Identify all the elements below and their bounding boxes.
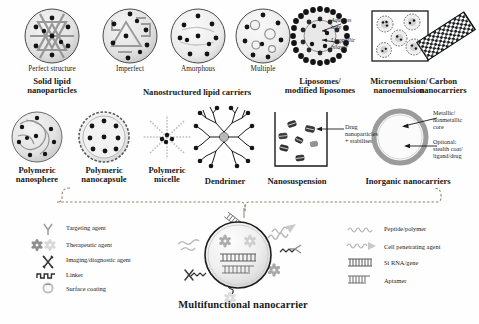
cell-penetrating-agent-icon (347, 242, 376, 250)
legend-right-label-3: Aptamer (384, 277, 406, 284)
legend-right-label-0: Peptide/polymer (384, 225, 426, 232)
annotation-aqueous-core: Aqueouscore (331, 17, 373, 30)
label-dendrimer: Dendrimer (196, 177, 254, 186)
carrier-linker-left (191, 273, 206, 276)
carrier-peptide-left (178, 240, 199, 251)
legend-right-label-2: Si RNA/gene (384, 259, 418, 266)
label-polymeric-nanocapsule: Polymericnanocapsule (68, 166, 140, 185)
imaging-diagnostic-agent-icon (43, 256, 52, 267)
nlc-amorphous (171, 9, 225, 63)
aptamer-icon (348, 276, 370, 283)
label-nanostructured-lipid-carriers: Nanostructured lipid carriers (104, 88, 290, 97)
liposome-illustration (290, 6, 350, 66)
annotation-optional-stealth-coat: Optional:stealth coat/ligand/drug (433, 139, 479, 160)
microemulsion-illustration (372, 11, 428, 61)
legend-left-label-3: Linker (66, 271, 83, 278)
carrier-core-sphere (205, 222, 271, 288)
label-polymeric-nanosphere: Polymericnanosphere (2, 166, 72, 185)
targeting-agent-icon (44, 224, 52, 235)
carrier-cell-penetrating (268, 224, 296, 239)
legend-left-label-2: Imaging/diagnostic agent (66, 256, 131, 263)
polymeric-nanosphere-illustration (12, 112, 62, 162)
label-inorganic-nanocarriers: Inorganic nanocarriers (348, 177, 468, 186)
sln-perfect-structure (25, 9, 79, 63)
si-rna-gene-icon (348, 259, 372, 266)
nlc-multiple (236, 9, 290, 63)
label-nanosuspension: Nanosuspension (254, 177, 340, 186)
linker-icon (37, 274, 55, 278)
dendrimer-illustration (194, 106, 255, 169)
label-carbon-nanocarriers: Carbonnanocarriers (408, 77, 478, 96)
legend-left-label-1: Therapeutic agent (66, 241, 112, 248)
label-perfect-structure: Perfect structure (2, 66, 102, 74)
label-solid-lipid-nanoparticles: Solid lipidnanoparticles (4, 77, 100, 96)
therapeutic-agent-icon (32, 239, 56, 251)
nanosuspension-illustration (275, 112, 344, 166)
legend-left-icons (32, 222, 62, 296)
label-imperfect: Imperfect (100, 66, 160, 74)
multifunctional-nanocarrier-illustration (168, 208, 318, 300)
peptide-polymer-icon (348, 228, 372, 232)
legend-right-icons (346, 224, 384, 294)
label-polymeric-micelle: Polymericmicelle (138, 166, 196, 185)
annotation-lipophilic-bilayer: Lipophilicbilayer (331, 37, 375, 50)
label-liposomes: Liposomes/modified liposomes (268, 77, 372, 96)
legend-left-label-4: Surface coating (66, 285, 106, 292)
label-multiple: Multiple (234, 66, 292, 74)
annotation-drug-nanoparticles: Drugnanoparticles+ stabiliser (345, 124, 393, 145)
legend-right-label-1: Cell penetrating agent (384, 243, 440, 250)
legend-left-label-0: Targeting agent (66, 224, 106, 231)
label-amorphous: Amorphous (166, 66, 230, 74)
figure-title: Multifunctional nanocarrier (130, 299, 356, 310)
nlc-imperfect (103, 9, 157, 63)
surface-coating-icon (43, 283, 52, 292)
nanocarrier-figure: Aqueouscore Lipophilicbilayer Perfect st… (0, 0, 479, 324)
annotation-metallic-core: Metallic/nonmetalliccore (433, 110, 479, 131)
polymeric-nanocapsule-illustration (79, 112, 129, 162)
polymeric-micelle-illustration (143, 115, 191, 159)
